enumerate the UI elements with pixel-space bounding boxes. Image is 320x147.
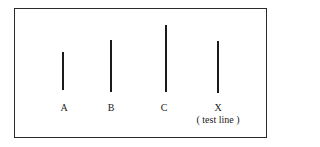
label-x: X: [188, 102, 248, 113]
label-b: B: [81, 102, 141, 113]
line-c: [165, 25, 167, 92]
line-x-test: [217, 41, 219, 93]
label-c: C: [134, 102, 194, 113]
line-b: [110, 40, 112, 92]
label-x-sublabel: ( test line ): [188, 114, 248, 125]
line-a: [62, 52, 64, 90]
